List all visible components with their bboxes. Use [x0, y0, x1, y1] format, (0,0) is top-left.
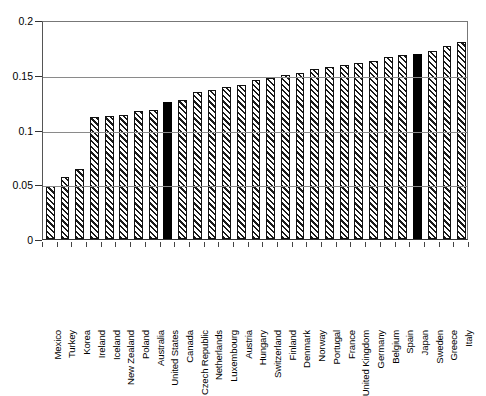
- x-tick-mark: [189, 242, 190, 247]
- bar-italy: [457, 42, 466, 239]
- y-tick-mark: [35, 21, 42, 22]
- x-tick-mark: [439, 242, 440, 247]
- gridline: [43, 132, 467, 133]
- x-tick-mark: [350, 242, 351, 247]
- x-tick-label: France: [347, 330, 357, 359]
- bar-germany: [369, 61, 378, 239]
- x-tick-mark: [57, 242, 58, 247]
- bar-canada: [178, 100, 187, 239]
- y-tick-mark: [35, 240, 42, 241]
- bar-mexico: [46, 186, 55, 239]
- x-tick-label: Luxembourg: [229, 330, 239, 382]
- bar-czech-republic: [193, 92, 202, 239]
- bar-switzerland: [266, 78, 275, 239]
- x-tick-label: Belgium: [391, 330, 401, 364]
- x-tick-mark: [71, 242, 72, 247]
- x-tick-mark: [424, 242, 425, 247]
- x-tick-mark: [145, 242, 146, 247]
- x-axis-labels: MexicoTurkeyKoreaIrelandIcelandNew Zeala…: [42, 242, 468, 334]
- bar-series: [43, 22, 467, 239]
- x-tick-mark: [174, 242, 175, 247]
- y-tick-mark: [35, 185, 42, 186]
- bar-finland: [281, 75, 290, 239]
- bar-portugal: [325, 67, 334, 239]
- x-tick-label: Hungary: [258, 330, 268, 365]
- x-tick-label: Denmark: [302, 330, 312, 368]
- x-tick-label: Portugal: [332, 330, 342, 365]
- bar-belgium: [384, 57, 393, 239]
- x-tick-mark: [292, 242, 293, 247]
- x-tick-mark: [86, 242, 87, 247]
- x-tick-mark: [277, 242, 278, 247]
- x-tick-mark: [409, 242, 410, 247]
- x-tick-mark: [160, 242, 161, 247]
- x-tick-mark: [453, 242, 454, 247]
- x-tick-label: Australia: [156, 330, 166, 366]
- y-tick-label: 0: [27, 235, 33, 246]
- x-tick-mark: [336, 242, 337, 247]
- x-tick-label: Czech Republic: [200, 330, 210, 395]
- x-tick-mark: [233, 242, 234, 247]
- x-tick-mark: [115, 242, 116, 247]
- x-tick-label: Poland: [141, 330, 151, 359]
- bar-united-kingdom: [354, 63, 363, 239]
- x-tick-label: Germany: [376, 330, 386, 368]
- bar-poland: [134, 111, 143, 239]
- x-tick-mark: [395, 242, 396, 247]
- y-tick-mark: [35, 76, 42, 77]
- y-tick-label: 0.1: [18, 125, 33, 136]
- x-tick-mark: [101, 242, 102, 247]
- x-tick-label: United States: [170, 330, 180, 386]
- y-tick-mark: [35, 131, 42, 132]
- bar-hungary: [252, 80, 261, 239]
- x-tick-label: Canada: [185, 330, 195, 363]
- x-tick-mark: [365, 242, 366, 247]
- y-tick-label: 0.05: [13, 180, 33, 191]
- bar-austria: [237, 85, 246, 239]
- bar-sweden: [428, 51, 437, 239]
- x-tick-label: Korea: [82, 330, 92, 355]
- x-tick-mark: [380, 242, 381, 247]
- bar-korea: [75, 169, 84, 239]
- x-tick-label: Turkey: [67, 330, 77, 358]
- x-tick-label: Italy: [464, 330, 474, 347]
- x-tick-label: Finland: [288, 330, 298, 360]
- x-tick-label: Greece: [449, 330, 459, 361]
- x-tick-label: Switzerland: [273, 330, 283, 378]
- bar-ireland: [90, 117, 99, 239]
- bar-france: [340, 65, 349, 239]
- bar-denmark: [296, 73, 305, 239]
- x-tick-mark: [468, 242, 469, 247]
- x-tick-label: Sweden: [435, 330, 445, 364]
- bar-greece: [443, 46, 452, 239]
- x-tick-label: Ireland: [97, 330, 107, 358]
- bar-netherlands: [208, 90, 217, 239]
- x-tick-label: United Kingdom: [361, 330, 371, 396]
- bar-united-states: [163, 102, 172, 239]
- y-tick-label: 0.2: [18, 16, 33, 27]
- x-tick-mark: [248, 242, 249, 247]
- bar-norway: [310, 69, 319, 239]
- x-tick-mark: [130, 242, 131, 247]
- x-tick-label: Japan: [420, 330, 430, 355]
- bar-iceland: [105, 116, 114, 239]
- x-tick-mark: [204, 242, 205, 247]
- gridline: [43, 186, 467, 187]
- y-axis-labels: 00.050.10.150.2: [0, 0, 40, 334]
- bar-spain: [398, 55, 407, 239]
- bar-australia: [149, 110, 158, 239]
- x-tick-label: Spain: [405, 330, 415, 354]
- bar-luxembourg: [222, 87, 231, 239]
- x-tick-mark: [321, 242, 322, 247]
- x-tick-label: Norway: [317, 330, 327, 362]
- x-tick-mark: [42, 242, 43, 247]
- plot-area: [42, 21, 468, 240]
- y-tick-label: 0.15: [13, 71, 33, 82]
- x-tick-mark: [306, 242, 307, 247]
- x-tick-mark: [262, 242, 263, 247]
- x-tick-label: New Zealand: [126, 330, 136, 385]
- gridline: [43, 77, 467, 78]
- x-tick-label: Netherlands: [214, 330, 224, 380]
- x-tick-label: Iceland: [112, 330, 122, 360]
